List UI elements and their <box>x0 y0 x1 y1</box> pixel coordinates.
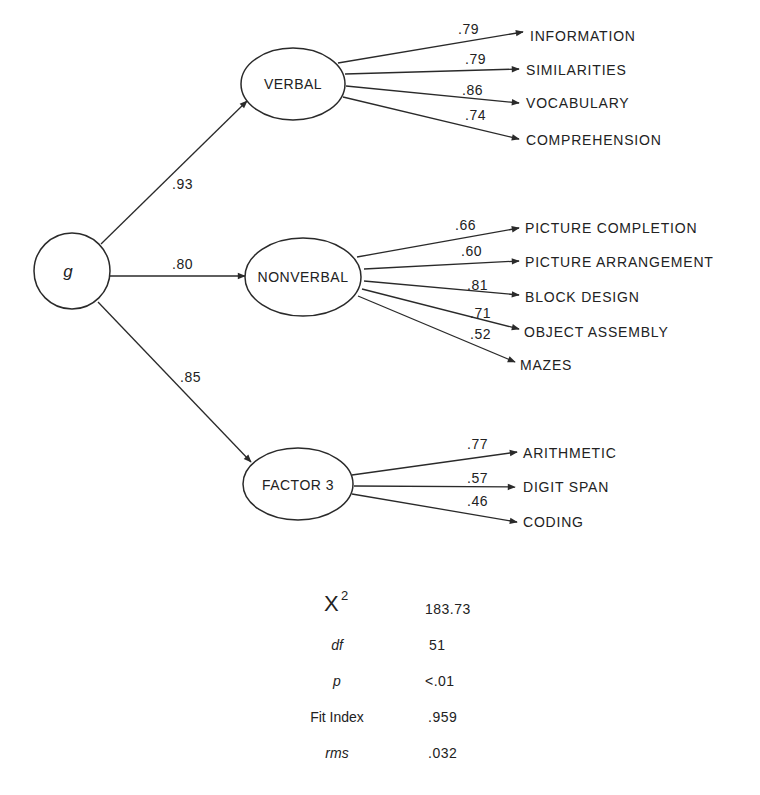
p-label: p <box>332 673 341 689</box>
g-nonverbal-coefficient: .80 <box>172 256 193 272</box>
picture-arrangement-coefficient: .60 <box>461 243 482 259</box>
digit-span-label: DIGIT SPAN <box>523 479 609 495</box>
g-to-nonverbal-path: .80 <box>110 256 245 276</box>
information-label: INFORMATION <box>530 28 636 44</box>
comprehension-label: COMPREHENSION <box>526 132 662 148</box>
picture-completion-coefficient: .66 <box>455 217 476 233</box>
block-design-coefficient: .81 <box>467 277 488 293</box>
p-row: p <.01 <box>332 673 455 689</box>
fit-index-label: Fit Index <box>310 709 364 725</box>
g-verbal-coefficient: .93 <box>172 176 193 192</box>
information-coefficient: .79 <box>458 21 479 37</box>
factor3-node-label: FACTOR 3 <box>262 477 334 493</box>
df-label: df <box>331 637 345 653</box>
object-assembly-label: OBJECT ASSEMBLY <box>524 324 669 340</box>
verbal-node-label: VERBAL <box>264 76 322 92</box>
arithmetic-coefficient: .77 <box>467 436 488 452</box>
df-row: df 51 <box>331 637 445 653</box>
digit-span-coefficient: .57 <box>467 470 488 486</box>
coding-coefficient: .46 <box>467 493 488 509</box>
comprehension-coefficient: .74 <box>465 107 486 123</box>
nonverbal-node-label: NONVERBAL <box>258 269 349 285</box>
g-factor3-coefficient: .85 <box>180 369 201 385</box>
rms-value: .032 <box>428 745 457 761</box>
picture-completion-label: PICTURE COMPLETION <box>525 220 697 236</box>
factor-path-diagram: .93 .80 .85 g VERBAL .79 .79 .86 .74 INF… <box>0 0 760 795</box>
factor3-factor: FACTOR 3 .77 .57 .46 ARITHMETIC DIGIT SP… <box>243 436 617 530</box>
block-design-label: BLOCK DESIGN <box>525 289 640 305</box>
g-to-factor3-path: .85 <box>98 302 251 462</box>
fit-index-row: Fit Index .959 <box>310 709 457 725</box>
picture-arrangement-label: PICTURE ARRANGEMENT <box>525 254 714 270</box>
rms-label: rms <box>325 745 348 761</box>
g-to-verbal-path: .93 <box>101 101 247 244</box>
chi-square-value: 183.73 <box>425 601 471 617</box>
df-value: 51 <box>429 637 446 653</box>
mazes-coefficient: .52 <box>470 326 491 342</box>
g-node: g <box>34 233 110 309</box>
chi-square-label: X <box>324 591 339 616</box>
arithmetic-label: ARITHMETIC <box>523 445 617 461</box>
fit-statistics-table: X 2 183.73 df 51 p <.01 Fit Index .959 r… <box>310 588 471 761</box>
similarities-label: SIMILARITIES <box>526 62 627 78</box>
similarities-coefficient: .79 <box>465 51 486 67</box>
vocabulary-coefficient: .86 <box>462 82 483 98</box>
coding-label: CODING <box>523 514 584 530</box>
verbal-factor: VERBAL .79 .79 .86 .74 INFORMATION SIMIL… <box>241 21 662 148</box>
object-assembly-coefficient: .71 <box>470 305 491 321</box>
nonverbal-factor: NONVERBAL .66 .60 .81 .71 .52 PICTURE CO… <box>245 217 714 373</box>
vocabulary-label: VOCABULARY <box>526 95 629 111</box>
g-node-label: g <box>63 262 73 281</box>
rms-row: rms .032 <box>325 745 457 761</box>
chi-square-row: X 2 183.73 <box>324 588 471 617</box>
p-value: <.01 <box>425 673 455 689</box>
mazes-label: MAZES <box>520 357 572 373</box>
fit-index-value: .959 <box>428 709 457 725</box>
chi-square-superscript: 2 <box>341 588 348 603</box>
